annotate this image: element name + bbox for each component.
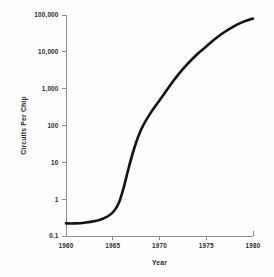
x-axis-title: Year — [152, 259, 167, 266]
x-tick-label: 1965 — [105, 242, 120, 249]
y-axis-title: Circuits Per Chip — [20, 96, 28, 155]
y-tick-label: 100,000 — [34, 11, 58, 19]
y-tick-label: 1,000 — [42, 85, 59, 93]
x-tick-label: 1980 — [246, 242, 261, 249]
semilog-line-chart: 0.11101001,00010,000100,000 196019651970… — [0, 0, 274, 277]
x-axis-tick-labels: 19601965197019751980 — [59, 242, 261, 249]
y-axis-tick-labels: 0.11101001,00010,000100,000 — [34, 11, 58, 239]
chart-figure: 0.11101001,00010,000100,000 196019651970… — [0, 0, 274, 277]
y-tick-label: 1 — [55, 196, 59, 203]
data-series-line — [66, 19, 253, 224]
x-tick-label: 1970 — [152, 242, 167, 249]
x-tick-label: 1960 — [59, 242, 74, 249]
x-tick-label: 1975 — [199, 242, 214, 249]
y-tick-label: 10 — [51, 159, 59, 166]
y-tick-label: 0.1 — [49, 232, 59, 239]
y-tick-label: 100 — [47, 122, 58, 129]
y-tick-label: 10,000 — [38, 48, 59, 56]
y-axis-tick-marks — [62, 15, 67, 236]
